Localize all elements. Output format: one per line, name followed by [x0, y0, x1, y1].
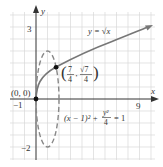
y-tick-neg2: −2 — [21, 143, 31, 153]
graph-canvas: y x 3 −2 −1 9 (0, 0) y = √x ( 7 4 , √7 4… — [0, 0, 163, 167]
x-denominator: 4 — [68, 75, 72, 84]
y-axis — [33, 5, 39, 160]
ellipse-lhs: (x − 1)² + — [64, 113, 98, 123]
origin-point — [34, 97, 39, 102]
intersection-point — [54, 65, 59, 70]
x-axis-arrow-icon — [151, 96, 159, 102]
x-axis-label: x — [150, 86, 155, 96]
ellipse-frac-num: y² — [102, 108, 109, 117]
y-denominator: 4 — [84, 75, 88, 84]
comma: , — [76, 69, 78, 78]
y-axis-label: y — [40, 6, 45, 16]
left-paren: ( — [61, 63, 67, 82]
sqrt-equation-label: y = √x — [87, 26, 110, 36]
ellipse-rhs: = 1 — [114, 113, 125, 123]
ellipse-frac-den: 4 — [104, 118, 108, 127]
y-tick-3: 3 — [27, 24, 32, 34]
right-paren: ) — [93, 63, 99, 82]
sqrt-curve-arrow-icon — [145, 25, 153, 31]
origin-label: (0, 0) — [11, 88, 31, 98]
x-tick-9: 9 — [136, 101, 141, 111]
y-numerator: √7 — [80, 65, 88, 74]
x-tick-neg1: −1 — [13, 100, 23, 110]
x-numerator: 7 — [68, 65, 72, 74]
y-axis-arrow-icon — [33, 5, 39, 13]
intersection-label: ( 7 4 , √7 4 ) — [61, 63, 99, 84]
grid — [10, 12, 155, 160]
